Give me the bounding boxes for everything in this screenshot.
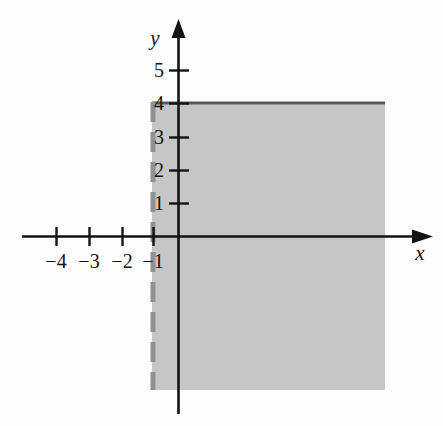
y-tick-label-1: 1 xyxy=(154,192,164,214)
x-tick-label--2: −2 xyxy=(111,250,132,272)
y-tick-label-3: 3 xyxy=(154,126,164,148)
x-tick-label--3: −3 xyxy=(78,250,99,272)
inequality-graph-figure: −4 −3 −2 −1 1 2 3 4 5 y x xyxy=(0,0,443,426)
x-tick-label--1: −1 xyxy=(142,250,163,272)
x-tick-label--4: −4 xyxy=(45,250,66,272)
y-axis-arrowhead xyxy=(172,19,186,38)
y-axis-label: y xyxy=(148,26,160,50)
y-tick-label-2: 2 xyxy=(154,159,164,181)
x-axis-label: x xyxy=(414,241,425,265)
y-tick-label-4: 4 xyxy=(154,92,164,114)
y-tick-label-5: 5 xyxy=(154,59,164,81)
shaded-solution-region xyxy=(152,102,385,390)
coordinate-plane: −4 −3 −2 −1 1 2 3 4 5 y x xyxy=(0,0,443,426)
